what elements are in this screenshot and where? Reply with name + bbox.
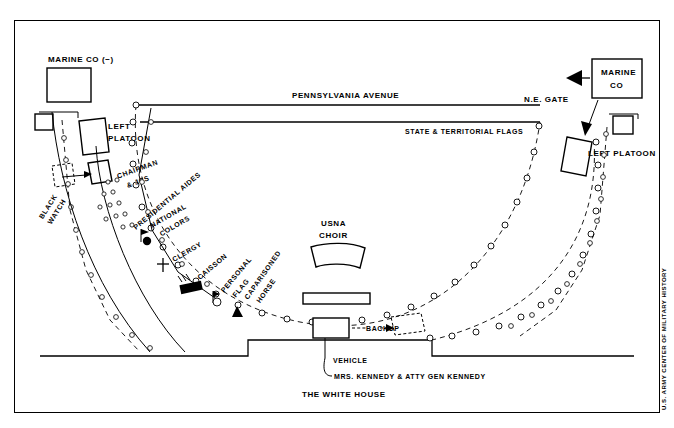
vehicle-box [313, 318, 349, 338]
black-watch-dashed-box [52, 163, 75, 187]
state-territorial-flags-label: STATE & TERRITORIAL FLAGS [405, 128, 523, 135]
marine-co-right-label-line1: MARINE [601, 68, 636, 77]
marine-co-inbound-arrow-head [566, 70, 582, 86]
center-platform-box [303, 293, 370, 304]
backup-label: BACKUP [366, 325, 400, 332]
marine-co-deploy-arrow-shaft [588, 100, 598, 127]
usna-choir-label-line2: CHOIR [319, 231, 348, 240]
marine-co-deploy-arrow-head [581, 121, 592, 136]
personal-flag-marker [213, 298, 221, 306]
marine-co-right-box [592, 59, 642, 98]
diagram-border [15, 21, 660, 413]
national-colors-marker [143, 237, 151, 245]
credit-label: U.S. ARMY CENTER OF MILITARY HISTORY [661, 268, 667, 410]
caisson-label-group: CAISSON [196, 252, 228, 281]
white-house-boundary-line [40, 340, 634, 356]
marine-co-right-label-line2: CO [610, 81, 623, 90]
national-colors-flag-icon [141, 229, 149, 235]
right-flank-box [613, 116, 633, 134]
left-platoon-left-label-line1: LEFT [108, 122, 130, 131]
marine-co-left-box [47, 68, 91, 102]
formation-diagram: PENNSYLVANIA AVENUE STATE & TERRITORIAL … [0, 0, 674, 428]
clergy-cross-icon [157, 258, 169, 272]
occupants-label: MRS. KENNEDY & ATTY GEN KENNEDY [334, 373, 486, 380]
credit-group: U.S. ARMY CENTER OF MILITARY HISTORY [661, 268, 667, 410]
occupants-leader-line [324, 358, 332, 376]
left-platoon-left-box [79, 118, 109, 155]
vehicle-label: VEHICLE [333, 357, 368, 364]
left-flank-troop-line [62, 120, 140, 352]
pennsylvania-avenue-label: PENNSYLVANIA AVENUE [292, 91, 399, 100]
clergy-label-group: CLERGY [171, 240, 203, 262]
left-flank-box [35, 114, 53, 130]
black-watch-label-group: BLACK WATCH [38, 192, 67, 225]
caparisoned-horse-label-group: CAPARISONED HORSE [243, 249, 292, 307]
marine-co-left-label: MARINE CO (−) [48, 55, 114, 64]
usna-choir-label-line1: USNA [321, 219, 346, 228]
usna-choir-band [311, 243, 365, 268]
white-house-label: THE WHITE HOUSE [302, 390, 386, 399]
diagram-canvas: PENNSYLVANIA AVENUE STATE & TERRITORIAL … [0, 0, 674, 428]
left-platoon-right-label: LEFT PLATOON [588, 149, 656, 158]
caisson-label: CAISSON [196, 252, 228, 281]
clergy-label: CLERGY [171, 240, 203, 262]
ne-gate-label: N.E. GATE [524, 95, 569, 104]
caparisoned-horse-marker [232, 306, 243, 317]
chairman-label-line1: CHAIRMAN [116, 158, 159, 179]
